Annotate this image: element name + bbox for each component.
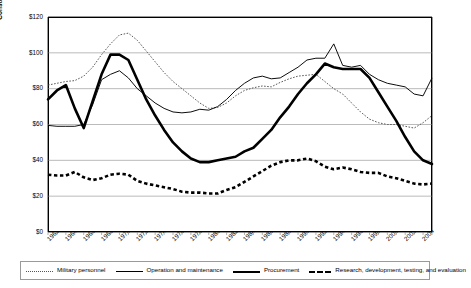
- series-line-procurement: [48, 55, 432, 164]
- dotted-line-swatch-icon: [26, 267, 53, 274]
- legend-label: Research, development, testing, and eval…: [335, 267, 466, 273]
- legend-item-rdte[interactable]: Research, development, testing, and eval…: [304, 267, 471, 274]
- legend-item-military-personnel[interactable]: Military personnel: [21, 267, 111, 274]
- legend-label: Military personnel: [57, 267, 106, 273]
- legend-label: Operation and maintenance: [147, 267, 223, 273]
- series-layer: [48, 33, 432, 193]
- legend-item-procurement[interactable]: Procurement: [228, 267, 304, 274]
- dashed-line-swatch-icon: [309, 267, 331, 274]
- legend-label: Procurement: [264, 267, 299, 273]
- series-line-research-development-testing-and-evaluation: [48, 159, 432, 194]
- x-axis-tickmarks: [48, 232, 432, 235]
- thin-line-swatch-icon: [116, 267, 143, 274]
- chart-legend: Military personnel Operation and mainten…: [20, 261, 430, 280]
- legend-item-operation-and-maintenance[interactable]: Operation and maintenance: [111, 267, 228, 274]
- thick-line-swatch-icon: [233, 267, 260, 274]
- series-line-military-personnel: [48, 33, 432, 128]
